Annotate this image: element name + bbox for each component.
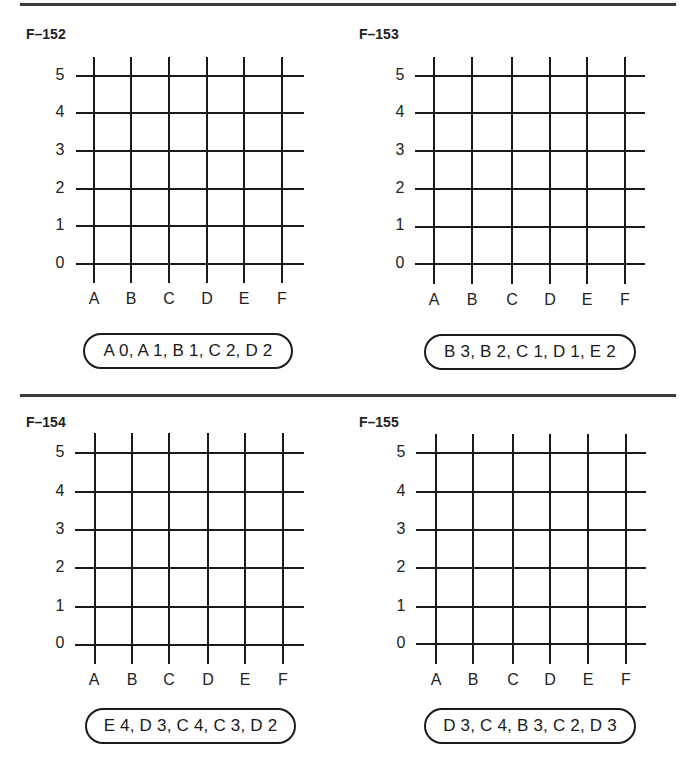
x-label-b: B bbox=[465, 671, 481, 689]
x-label-a: A bbox=[428, 671, 444, 689]
x-label-d: D bbox=[542, 671, 558, 689]
x-label-c: C bbox=[505, 671, 521, 689]
y-label-0: 0 bbox=[394, 634, 408, 652]
coordinate-grid-f155 bbox=[0, 0, 696, 774]
x-label-e: E bbox=[580, 671, 596, 689]
coordinate-list-f155: D 3, C 4, B 3, C 2, D 3 bbox=[424, 708, 636, 744]
x-label-f: F bbox=[618, 671, 634, 689]
y-label-1: 1 bbox=[394, 597, 408, 615]
y-label-5: 5 bbox=[394, 443, 408, 461]
y-label-4: 4 bbox=[394, 482, 408, 500]
y-label-3: 3 bbox=[394, 520, 408, 538]
y-label-2: 2 bbox=[394, 558, 408, 576]
